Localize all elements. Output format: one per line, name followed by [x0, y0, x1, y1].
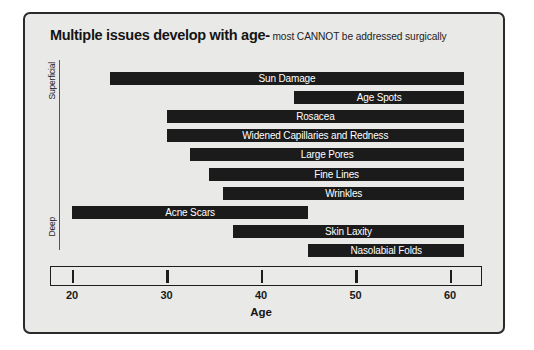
- bar-label: Sun Damage: [259, 72, 316, 85]
- x-axis-tick-label-50: 50: [349, 289, 361, 301]
- bar-age-spots: Age Spots: [294, 91, 464, 104]
- bar-label: Nasolabial Folds: [350, 244, 422, 257]
- bar-label: Acne Scars: [165, 206, 215, 219]
- bar-label: Large Pores: [301, 148, 354, 161]
- bar-label: Rosacea: [296, 110, 334, 123]
- x-axis-title: Age: [250, 306, 272, 318]
- bar-wrinkles: Wrinkles: [223, 187, 464, 200]
- x-axis-tick-label-60: 60: [444, 289, 456, 301]
- bar-sun-damage: Sun Damage: [110, 72, 464, 85]
- x-axis-box: [50, 266, 482, 286]
- bar-label: Wrinkles: [325, 187, 362, 200]
- bar-fine-lines: Fine Lines: [209, 168, 464, 181]
- bar-label: Fine Lines: [314, 168, 359, 181]
- x-axis-tick-label-30: 30: [160, 289, 172, 301]
- bar-label: Skin Laxity: [325, 225, 372, 238]
- x-axis-tick-20: [72, 270, 75, 283]
- x-axis-tick-label-40: 40: [255, 289, 267, 301]
- x-axis-tick-30: [166, 270, 169, 283]
- bar-rosacea: Rosacea: [167, 110, 465, 123]
- bar-label: Widened Capillaries and Redness: [242, 129, 388, 142]
- chart-page: Multiple issues develop with age- most C…: [0, 0, 534, 350]
- x-axis-tick-40: [261, 270, 264, 283]
- bar-nasolabial-folds: Nasolabial Folds: [308, 244, 464, 257]
- bar-large-pores: Large Pores: [190, 148, 464, 161]
- x-axis-tick-60: [450, 270, 453, 283]
- chart-panel: Multiple issues develop with age- most C…: [23, 12, 505, 334]
- bar-widened-capillaries-and-redness: Widened Capillaries and Redness: [167, 129, 465, 142]
- bar-label: Age Spots: [357, 91, 402, 104]
- x-axis-tick-label-20: 20: [66, 289, 78, 301]
- bar-series: Sun DamageAge SpotsRosaceaWidened Capill…: [25, 14, 507, 336]
- plot-area: Superficial Deep Sun DamageAge SpotsRosa…: [25, 14, 507, 336]
- x-axis-tick-50: [355, 270, 358, 283]
- bar-skin-laxity: Skin Laxity: [233, 225, 465, 238]
- bar-acne-scars: Acne Scars: [72, 206, 308, 219]
